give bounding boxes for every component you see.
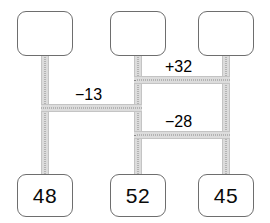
- node-box-bottom-left[interactable]: 48: [17, 174, 73, 217]
- edge-label-minus-28: −28: [163, 113, 194, 131]
- node-box-bottom-middle[interactable]: 52: [110, 174, 166, 217]
- node-box-top-left[interactable]: [17, 11, 73, 56]
- node-box-top-middle[interactable]: [110, 11, 166, 56]
- connector-horizontal-minus-28: [134, 131, 230, 139]
- edge-label-minus-13: −13: [73, 86, 104, 104]
- node-box-top-right[interactable]: [198, 11, 254, 56]
- diagram-canvas: 48 52 45 +32 −13 −28: [0, 0, 270, 223]
- connector-vertical-right: [222, 54, 230, 178]
- node-value-bottom-right: 45: [214, 185, 238, 206]
- connector-vertical-left: [41, 54, 49, 178]
- connector-vertical-middle: [134, 54, 142, 178]
- connector-horizontal-minus-13: [41, 104, 142, 112]
- edge-label-plus-32: +32: [163, 58, 194, 76]
- node-box-bottom-right[interactable]: 45: [198, 174, 254, 217]
- connector-horizontal-plus-32: [134, 76, 230, 84]
- node-value-bottom-middle: 52: [126, 185, 150, 206]
- node-value-bottom-left: 48: [33, 185, 57, 206]
